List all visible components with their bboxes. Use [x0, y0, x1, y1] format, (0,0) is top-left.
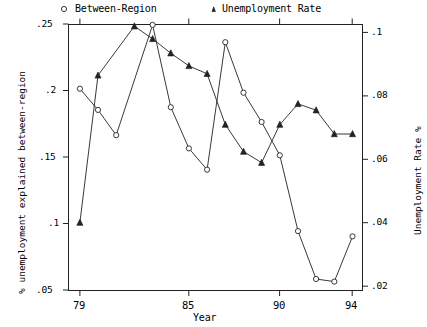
data-point [205, 167, 210, 172]
y-tick-label-2: .15 [39, 151, 56, 162]
data-point [168, 105, 173, 110]
data-point [131, 23, 137, 29]
y-axis-left-ticks [63, 24, 69, 290]
x-axis-ticks [80, 291, 352, 297]
data-point [168, 50, 174, 56]
series-unemployment-rate-line [80, 26, 353, 222]
y2-tick-label-0: .02 [371, 280, 388, 291]
data-point [295, 229, 300, 234]
y-axis-left-title: % unemployment explained between-region [16, 71, 27, 294]
data-point [259, 159, 265, 165]
x-axis-ticks-top [80, 19, 352, 25]
data-point [186, 63, 192, 69]
y-tick-label-3: .2 [45, 84, 56, 95]
data-point [350, 234, 355, 239]
data-point [186, 146, 191, 151]
data-point [332, 279, 337, 284]
y-tick-label-4: .25 [36, 18, 53, 29]
data-point [222, 121, 228, 127]
chart-root: Between-Region Unemployment Rate [0, 0, 427, 327]
data-point [259, 119, 264, 124]
plot-frame [69, 25, 363, 291]
x-axis-title: Year [193, 312, 216, 323]
y2-tick-label-2: .06 [371, 153, 388, 164]
data-point [241, 90, 246, 95]
y2-tick-label-3: .08 [371, 89, 388, 100]
data-point [95, 107, 100, 112]
data-point [77, 219, 83, 225]
x-tick-label-2: 90 [273, 299, 285, 311]
x-tick-label-0: 79 [73, 299, 85, 311]
data-point [277, 153, 282, 158]
data-point [314, 276, 319, 281]
plot-canvas [0, 0, 427, 327]
data-point [204, 70, 210, 76]
y2-tick-label-1: .04 [371, 216, 388, 227]
y-tick-label-1: .1 [48, 217, 59, 228]
data-point [77, 86, 82, 91]
y2-tick-label-4: .1 [371, 26, 382, 37]
data-point [114, 133, 119, 138]
y-axis-right-ticks [363, 32, 369, 286]
x-tick-label-1: 85 [182, 299, 194, 311]
data-point [223, 40, 228, 45]
series-unemployment-rate [77, 23, 356, 226]
series-between-region [77, 22, 355, 284]
data-point [295, 101, 301, 107]
y-tick-label-0: .05 [36, 284, 53, 295]
x-tick-label-3: 94 [345, 299, 357, 311]
series-between-region-line [80, 25, 353, 282]
y-axis-right-title: Unemployment Rate % [412, 126, 423, 235]
data-point [150, 22, 155, 27]
